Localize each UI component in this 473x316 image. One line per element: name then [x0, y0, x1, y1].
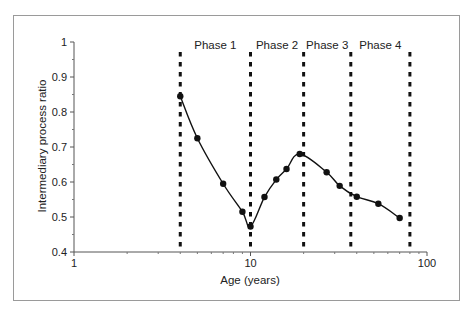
y-tick-label: 0.8	[52, 106, 67, 118]
data-point-marker	[336, 183, 342, 189]
x-tick-label: 10	[244, 257, 256, 269]
data-point-marker	[323, 169, 329, 175]
y-tick-label: 0.4	[52, 246, 67, 258]
data-point-marker	[194, 135, 200, 141]
data-point-marker	[239, 209, 245, 215]
y-tick-label: 0.7	[52, 141, 67, 153]
x-tick-label: 1	[71, 257, 77, 269]
data-point-marker	[396, 215, 402, 221]
data-point-marker	[273, 176, 279, 182]
data-point-marker	[354, 194, 360, 200]
chart: Phase 1Phase 2Phase 3Phase 4 110100 0.40…	[0, 0, 473, 316]
y-tick-label: 0.9	[52, 71, 67, 83]
phase-label: Phase 3	[306, 39, 348, 51]
data-point-marker	[220, 181, 226, 187]
x-tick-label: 100	[418, 257, 436, 269]
phase-labels: Phase 1Phase 2Phase 3Phase 4	[194, 39, 402, 51]
y-tick-label: 0.6	[52, 176, 67, 188]
phase-label: Phase 1	[194, 39, 236, 51]
chart-frame	[14, 16, 460, 301]
phase-label: Phase 2	[256, 39, 298, 51]
data-point-marker	[177, 93, 183, 99]
x-axis-title: Age (years)	[220, 274, 280, 286]
y-axis-title: Intermediary process ratio	[36, 80, 48, 213]
y-tick-label: 1	[61, 36, 67, 48]
y-tick-label: 0.5	[52, 211, 67, 223]
data-point-marker	[261, 194, 267, 200]
data-point-marker	[247, 223, 253, 229]
data-point-marker	[375, 201, 381, 207]
data-point-marker	[297, 151, 303, 157]
data-point-marker	[283, 166, 289, 172]
phase-label: Phase 4	[359, 39, 402, 51]
